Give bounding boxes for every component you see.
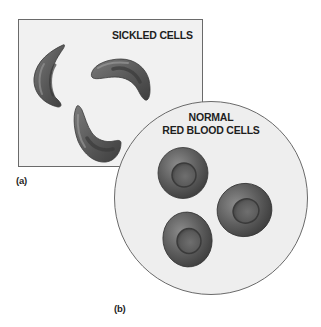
normal-cell-1 [158, 148, 208, 199]
normal-cells-title-line1: NORMAL [150, 111, 272, 124]
illustration [0, 0, 321, 327]
figure: SICKLED CELLS NORMAL RED BLOOD CELLS (a)… [0, 0, 321, 327]
panel-a-label: (a) [16, 175, 27, 186]
panel-b-label: (b) [114, 303, 126, 314]
sickled-cells-title: SICKLED CELLS [112, 29, 193, 41]
normal-cells-title: NORMAL RED BLOOD CELLS [150, 111, 272, 137]
normal-cells-title-line2: RED BLOOD CELLS [150, 124, 272, 137]
